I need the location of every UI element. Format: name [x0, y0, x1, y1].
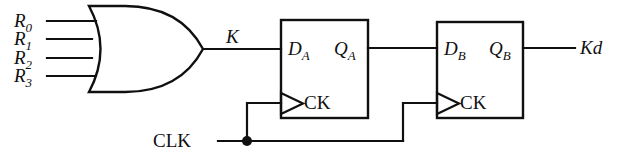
flipflop-a-q-label: QA: [334, 39, 356, 62]
circuit-diagram: R0 R1 R2 R3 K DA QA CK DB QB CK CLK Kd: [0, 0, 638, 160]
flipflop-b-clock-triangle: [437, 93, 459, 114]
wire-clk-to-ff-a: [247, 103, 281, 141]
or-gate-body: [89, 6, 203, 92]
clock-input-label: CLK: [153, 131, 191, 150]
input-r3-label: R3: [14, 66, 32, 89]
flipflop-a-d-label: DA: [288, 39, 310, 62]
flipflop-a-ck-label: CK: [304, 93, 330, 112]
flipflop-b-q-label: QB: [489, 39, 511, 62]
flipflop-b-ck-label: CK: [460, 93, 486, 112]
circuit-schematic-svg: [0, 0, 638, 160]
clock-junction-dot: [242, 136, 252, 146]
flipflop-a-clock-triangle: [281, 93, 303, 114]
signal-k-label: K: [226, 27, 239, 46]
output-kd-label: Kd: [580, 38, 602, 57]
flipflop-b-d-label: DB: [444, 39, 466, 62]
wire-clk-to-ff-b: [403, 103, 437, 141]
